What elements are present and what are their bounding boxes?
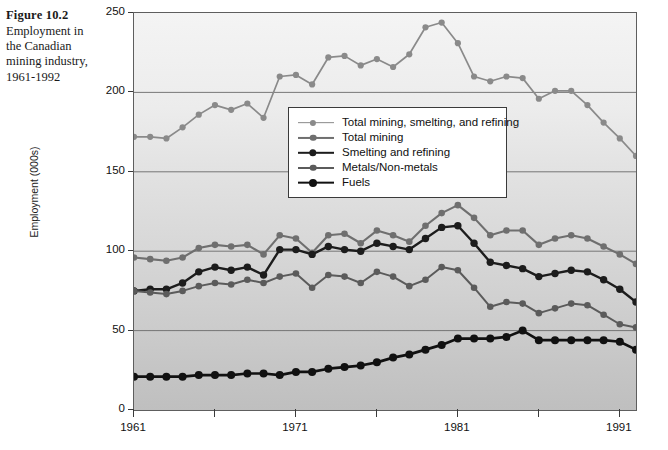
data-point [552, 305, 559, 312]
data-point [438, 210, 445, 217]
data-point [179, 124, 185, 130]
plot-area [133, 12, 637, 411]
data-point [357, 280, 364, 287]
data-point [195, 268, 202, 275]
data-point [503, 227, 510, 234]
data-point [325, 272, 332, 279]
data-point [341, 53, 347, 59]
data-point [552, 235, 559, 242]
y-tick-label: 250 [95, 5, 125, 17]
legend-label: Total mining [342, 131, 403, 144]
y-tick-label: 150 [95, 164, 125, 176]
data-point [502, 333, 510, 341]
series-line [134, 267, 636, 327]
data-point [211, 371, 219, 379]
data-point [600, 336, 608, 344]
data-point [471, 284, 478, 291]
data-point [439, 19, 445, 25]
data-point [455, 40, 461, 46]
data-point [324, 365, 332, 373]
data-point [406, 283, 413, 290]
data-point [535, 336, 543, 344]
data-point [520, 75, 526, 81]
data-point [568, 267, 575, 274]
data-point [390, 273, 397, 280]
data-point [373, 240, 380, 247]
x-tick-label: 1991 [597, 421, 641, 433]
series-1 [134, 202, 636, 267]
data-point [551, 270, 558, 277]
data-point [454, 335, 462, 343]
data-point [422, 24, 428, 30]
data-point [134, 134, 137, 140]
data-point [438, 224, 445, 231]
data-point [276, 246, 283, 253]
x-tick-mark [457, 409, 458, 417]
data-point [228, 243, 235, 250]
y-tick-label: 0 [95, 402, 125, 414]
data-point [584, 268, 591, 275]
data-point [179, 288, 186, 295]
data-point [470, 335, 478, 343]
series-3 [134, 264, 636, 331]
y-tick-mark [128, 12, 133, 13]
data-point [601, 119, 607, 125]
x-tick-mark [538, 409, 539, 417]
data-point [134, 373, 138, 381]
data-point [616, 338, 624, 346]
data-point [584, 102, 590, 108]
legend-item[interactable]: Metals/Non-metals [289, 160, 506, 175]
data-point [292, 368, 300, 376]
legend-item[interactable]: Smelting and refining [289, 145, 506, 160]
data-point [212, 280, 219, 287]
legend-item[interactable]: Total mining [289, 130, 506, 145]
data-point [470, 240, 477, 247]
data-point [390, 64, 396, 70]
legend-item[interactable]: Fuels [289, 175, 506, 190]
data-point [374, 227, 381, 234]
data-point [374, 56, 380, 62]
data-point [600, 276, 607, 283]
data-point [616, 286, 623, 293]
data-point [341, 273, 348, 280]
data-point [147, 134, 153, 140]
x-tick-mark [133, 409, 134, 417]
data-point [390, 232, 397, 239]
data-point [243, 369, 251, 377]
data-point [358, 62, 364, 68]
data-point [292, 246, 299, 253]
y-tick-mark [128, 171, 133, 172]
legend-item[interactable]: Total mining, smelting, and refining [289, 115, 506, 130]
data-point [212, 242, 219, 249]
data-point [584, 235, 591, 242]
data-point [146, 373, 154, 381]
data-point [195, 283, 202, 290]
line-chart: Employment (000s) Total mining, smelting… [0, 0, 668, 450]
data-point [536, 242, 543, 249]
data-point [212, 102, 218, 108]
data-point [438, 341, 446, 349]
data-point [568, 300, 575, 307]
data-point [438, 264, 445, 271]
data-point [584, 302, 591, 309]
data-point [487, 259, 494, 266]
legend-label: Total mining, smelting, and refining [342, 116, 519, 129]
data-point [147, 256, 154, 263]
series-line [134, 205, 636, 264]
legend-label: Fuels [342, 176, 370, 189]
legend-swatch-icon [298, 146, 334, 159]
legend-swatch-icon [298, 176, 334, 189]
data-point [309, 284, 316, 291]
legend-label: Metals/Non-metals [342, 161, 438, 174]
data-point [308, 368, 316, 376]
data-point [309, 81, 315, 87]
data-point [421, 346, 429, 354]
data-point [308, 251, 315, 258]
data-point [405, 350, 413, 358]
y-tick-mark [128, 91, 133, 92]
data-point [374, 269, 381, 276]
data-point [455, 202, 462, 209]
plot-svg [134, 13, 636, 410]
data-point [163, 135, 169, 141]
series-line [134, 331, 636, 377]
